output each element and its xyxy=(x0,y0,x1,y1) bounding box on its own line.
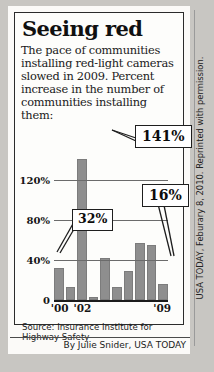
callout-pointer-16 xyxy=(153,198,177,260)
byline: By Julie Snider, USA TODAY xyxy=(8,340,190,350)
bar-chart: 040%80%120% '00'02'09 141% 32% 16% xyxy=(16,112,182,307)
x-axis-ticks: '00'02'09 xyxy=(54,302,168,318)
bar xyxy=(54,268,64,300)
gridline xyxy=(54,260,168,261)
y-axis-label: 40% xyxy=(27,255,50,266)
y-axis-label: 80% xyxy=(27,215,50,226)
y-axis-label: 0 xyxy=(43,295,50,306)
bar xyxy=(158,284,168,300)
bar xyxy=(100,258,110,300)
bar xyxy=(124,271,134,300)
deck-text: The pace of communities installing red-l… xyxy=(21,44,179,123)
callout-pointer-141 xyxy=(108,128,138,144)
x-axis-tick-label: '09 xyxy=(153,302,171,314)
credit-text: USA TODAY, Feburary 8, 2010. Reprinted w… xyxy=(195,57,205,300)
gridline xyxy=(54,180,168,181)
page-title: Seeing red xyxy=(22,18,142,39)
byline-divider xyxy=(10,337,190,338)
callout-32: 32% xyxy=(72,209,113,231)
y-axis-label: 120% xyxy=(20,175,50,186)
credit-vertical: USA TODAY, Feburary 8, 2010. Reprinted w… xyxy=(189,8,211,348)
callout-16: 16% xyxy=(142,184,189,207)
bar xyxy=(135,243,145,300)
bar xyxy=(112,287,122,300)
callout-141: 141% xyxy=(135,125,192,148)
infographic-page: Seeing red The pace of communities insta… xyxy=(0,0,214,372)
bar xyxy=(66,287,76,300)
x-axis-tick-label: '00 xyxy=(51,302,69,314)
x-axis-tick-label: '02 xyxy=(74,302,92,314)
